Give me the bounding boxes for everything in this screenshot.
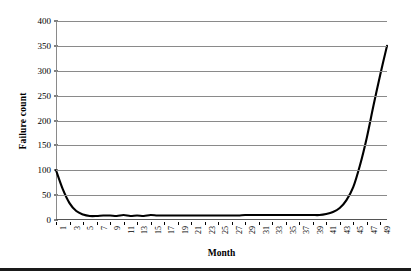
x-tick-label: 49: [384, 226, 392, 234]
y-tick-label: 200: [27, 116, 51, 125]
x-tick-label: 11: [128, 226, 136, 234]
x-tick-mark: [272, 222, 273, 225]
x-tick-label: 45: [357, 226, 365, 234]
x-axis-title: Month: [56, 248, 387, 258]
x-tick-label: 43: [344, 226, 352, 234]
x-tick-label: 23: [209, 226, 217, 234]
gridline-horizontal: [56, 71, 387, 72]
y-tick-label: 300: [27, 66, 51, 75]
x-tick-mark: [313, 222, 314, 225]
bottom-rule: [0, 268, 411, 271]
x-tick-label: 3: [74, 226, 82, 230]
y-tick-label: 50: [27, 191, 51, 200]
x-tick-label: 25: [222, 226, 230, 234]
x-tick-label: 35: [290, 226, 298, 234]
x-tick-mark: [137, 222, 138, 225]
x-tick-mark: [110, 222, 111, 225]
x-tick-label: 1: [60, 226, 68, 230]
gridline-horizontal: [56, 46, 387, 47]
x-tick-mark: [70, 222, 71, 225]
y-tick-label: 400: [27, 17, 51, 26]
x-tick-label: 41: [330, 226, 338, 234]
x-tick-mark: [151, 222, 152, 225]
x-tick-label: 39: [317, 226, 325, 234]
plot-area: [56, 21, 387, 220]
x-tick-label: 7: [101, 226, 109, 230]
x-tick-mark: [97, 222, 98, 225]
x-tick-label: 31: [263, 226, 271, 234]
x-tick-label: 21: [195, 226, 203, 234]
x-tick-mark: [191, 222, 192, 225]
gridline-horizontal: [56, 21, 387, 22]
x-tick-mark: [299, 222, 300, 225]
gridline-horizontal: [56, 195, 387, 196]
gridline-horizontal: [56, 96, 387, 97]
gridline-horizontal: [56, 145, 387, 146]
x-tick-mark: [326, 222, 327, 225]
y-axis-tick-labels: 050100150200250300350400: [28, 21, 54, 220]
x-tick-label: 13: [141, 226, 149, 234]
x-tick-mark: [178, 222, 179, 225]
y-tick-label: 100: [27, 166, 51, 175]
y-tick-label: 250: [27, 91, 51, 100]
gridline-horizontal: [56, 121, 387, 122]
x-tick-mark: [56, 222, 57, 225]
x-tick-mark: [353, 222, 354, 225]
y-tick-label: 150: [27, 141, 51, 150]
x-tick-label: 37: [303, 226, 311, 234]
x-tick-label: 33: [276, 226, 284, 234]
x-tick-mark: [286, 222, 287, 225]
x-tick-mark: [124, 222, 125, 225]
x-tick-mark: [340, 222, 341, 225]
gridline-horizontal: [56, 170, 387, 171]
x-tick-label: 17: [168, 226, 176, 234]
x-tick-mark: [259, 222, 260, 225]
x-tick-mark: [380, 222, 381, 225]
x-tick-label: 47: [371, 226, 379, 234]
x-tick-mark: [83, 222, 84, 225]
x-tick-mark: [245, 222, 246, 225]
x-tick-mark: [367, 222, 368, 225]
x-tick-label: 9: [114, 226, 122, 230]
x-tick-label: 29: [249, 226, 257, 234]
failure-count-chart-figure: Failure count 050100150200250300350400 1…: [0, 0, 411, 275]
x-tick-label: 27: [236, 226, 244, 234]
y-tick-label: 350: [27, 41, 51, 50]
x-tick-mark: [205, 222, 206, 225]
x-tick-mark: [164, 222, 165, 225]
x-tick-label: 15: [155, 226, 163, 234]
x-tick-label: 5: [87, 226, 95, 230]
x-tick-mark: [232, 222, 233, 225]
y-tick-label: 0: [27, 216, 51, 225]
x-tick-label: 19: [182, 226, 190, 234]
x-axis-tick-labels: 1357911131517192123252729313335373941434…: [56, 222, 387, 246]
x-tick-mark: [218, 222, 219, 225]
